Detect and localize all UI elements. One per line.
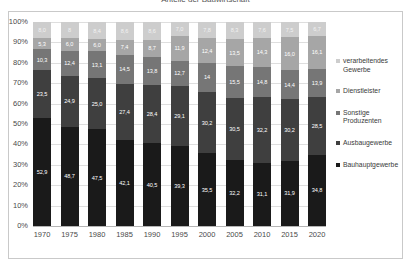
bar-segment[interactable]: 32,2 [253, 97, 271, 163]
bar-column[interactable]: 8,67,414,527,442,1 [116, 22, 134, 226]
bar-segment-value: 24,9 [64, 98, 75, 104]
x-axis-tick-label: 1990 [143, 230, 161, 239]
bar-segment[interactable]: 48,7 [61, 127, 79, 226]
bar-segment-value: 6,0 [93, 42, 100, 48]
bar-segment[interactable]: 7,6 [253, 22, 271, 38]
bar-segment[interactable]: 8,0 [33, 22, 51, 38]
bar-segment[interactable]: 12,4 [61, 51, 79, 76]
bar-column[interactable]: 7,516,014,430,231,9 [281, 22, 299, 226]
legend-item[interactable]: Ausbaugewerbe [336, 139, 408, 148]
x-axis-tick-label: 1995 [171, 230, 189, 239]
bar-segment[interactable]: 32,2 [226, 160, 244, 226]
legend-item-label: verarbeitendes Gewerbe [343, 57, 408, 74]
bar-segment[interactable]: 23,5 [33, 70, 51, 118]
bar-segment[interactable]: 24,9 [61, 76, 79, 127]
bar-segment[interactable]: 7,8 [198, 22, 216, 38]
bar-segment[interactable]: 6,0 [61, 38, 79, 50]
bar-segment[interactable]: 27,4 [116, 84, 134, 140]
y-axis-tick-label: 80% [0, 59, 28, 67]
bar-segment[interactable]: 14,4 [281, 70, 299, 99]
bar-segment-value: 13,8 [147, 68, 158, 74]
bar-segment[interactable]: 8,6 [143, 22, 161, 40]
bar-segment[interactable]: 10,3 [33, 49, 51, 70]
bar-segment-value: 52,9 [37, 169, 48, 175]
bar-segment-value: 42,1 [119, 180, 130, 186]
bar-segment[interactable]: 7,4 [116, 40, 134, 55]
legend-swatch-icon [336, 89, 340, 93]
bar-segment[interactable]: 31,1 [253, 163, 271, 226]
bar-segment[interactable]: 6,0 [88, 39, 106, 51]
bar-segment-value: 14,8 [257, 79, 268, 85]
bar-segment[interactable]: 7,5 [281, 22, 299, 37]
bar-segment-value: 12,7 [174, 70, 185, 76]
bar-segment[interactable]: 14,3 [253, 38, 271, 67]
legend-item[interactable]: Bauhauptgewerbe [336, 161, 408, 170]
bar-segment-value: 8,4 [93, 28, 100, 34]
bar-segment[interactable]: 8,4 [88, 22, 106, 39]
x-axis-labels: 1970197519801985199019952000200520102015… [33, 230, 326, 239]
bar-segment[interactable]: 34,8 [308, 155, 326, 226]
bar-segment[interactable]: 30,2 [281, 99, 299, 161]
bar-segment[interactable]: 8,3 [226, 22, 244, 39]
bar-segment[interactable]: 14,5 [116, 55, 134, 85]
bar-segment[interactable]: 11,9 [171, 36, 189, 60]
bar-segment[interactable]: 8,7 [143, 40, 161, 58]
bar-segment[interactable]: 30,2 [198, 92, 216, 154]
bar-segment[interactable]: 14,8 [253, 67, 271, 97]
bar-segment[interactable]: 40,5 [143, 143, 161, 226]
bar-segment[interactable]: 29,1 [171, 86, 189, 145]
bar-segment-value: 13,5 [229, 50, 240, 56]
x-axis-tick-label: 2000 [198, 230, 216, 239]
bar-segment[interactable]: 15,5 [226, 66, 244, 98]
bar-segment[interactable]: 12,7 [171, 61, 189, 87]
bar-column[interactable]: 8,46,013,125,047,5 [88, 22, 106, 226]
bar-segment[interactable]: 13,5 [226, 39, 244, 67]
bar-segment[interactable]: 16,1 [308, 36, 326, 69]
y-axis-tick-label: 40% [0, 141, 28, 149]
bar-segment[interactable]: 28,4 [143, 85, 161, 143]
bar-segment[interactable]: 7,0 [171, 22, 189, 36]
y-axis-tick-label: 100% [0, 18, 28, 26]
bar-segment[interactable]: 16,0 [281, 37, 299, 70]
bar-column[interactable]: 8,68,713,828,440,5 [143, 22, 161, 226]
bar-segment[interactable]: 25,0 [88, 78, 106, 129]
bar-segment[interactable]: 6,7 [308, 22, 326, 36]
bar-segment[interactable]: 13,8 [143, 57, 161, 85]
bar-segment[interactable]: 8,6 [116, 22, 134, 40]
bar-segment-value: 31,1 [257, 191, 268, 197]
stacked-bar-chart: Anteile der Bauwirtschaft 0%10%20%30%40%… [0, 0, 411, 264]
bar-column[interactable]: 86,012,424,948,7 [61, 22, 79, 226]
bar-segment[interactable]: 8 [61, 22, 79, 38]
bar-segment[interactable]: 5,3 [33, 38, 51, 49]
bar-segment[interactable]: 35,5 [198, 153, 216, 225]
y-axis-tick-label: 10% [0, 202, 28, 210]
bar-segment[interactable]: 31,9 [281, 161, 299, 226]
legend-item[interactable]: Dienstleister [336, 87, 408, 96]
bar-column[interactable]: 7,011,912,729,139,3 [171, 22, 189, 226]
bar-segment-value: 14,5 [119, 66, 130, 72]
y-axis-tick-label: 50% [0, 120, 28, 128]
bar-column[interactable]: 7,614,314,832,231,1 [253, 22, 271, 226]
bar-column[interactable]: 6,716,113,928,534,8 [308, 22, 326, 226]
bar-segment[interactable]: 13,9 [308, 69, 326, 97]
bar-segment[interactable]: 47,5 [88, 129, 106, 226]
bar-segment-value: 15,5 [229, 79, 240, 85]
bar-segment[interactable]: 39,3 [171, 146, 189, 226]
bar-column[interactable]: 7,812,41430,235,5 [198, 22, 216, 226]
bar-segment[interactable]: 12,4 [198, 38, 216, 63]
bar-column[interactable]: 8,05,310,323,552,9 [33, 22, 51, 226]
bar-segment-value: 40,5 [147, 182, 158, 188]
bar-segment-value: 5,3 [38, 41, 45, 47]
bar-column[interactable]: 8,313,515,530,532,2 [226, 22, 244, 226]
bar-segment[interactable]: 30,5 [226, 98, 244, 160]
bar-segment[interactable]: 13,1 [88, 51, 106, 78]
bar-segment[interactable]: 42,1 [116, 140, 134, 226]
bar-segment[interactable]: 14 [198, 63, 216, 92]
plot-area: 8,05,310,323,552,986,012,424,948,78,46,0… [33, 22, 326, 226]
bar-segment[interactable]: 28,5 [308, 97, 326, 155]
bar-segment[interactable]: 52,9 [33, 118, 51, 226]
y-axis-tick-label: 70% [0, 79, 28, 87]
legend-item[interactable]: verarbeitendes Gewerbe [336, 57, 408, 74]
legend-item[interactable]: Sonstige Produzenten [336, 109, 408, 126]
x-axis-tick-label: 2015 [281, 230, 299, 239]
